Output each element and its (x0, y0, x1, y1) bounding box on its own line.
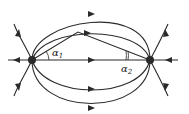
alpha1-label: α1 (52, 47, 63, 60)
arrow-right-axis (165, 57, 172, 63)
inner-field-line-top (32, 34, 150, 60)
arrow-outer-bottom (88, 105, 95, 111)
alpha2-label: α2 (121, 63, 133, 76)
outer-field-line-top (32, 22, 150, 60)
inner-field-line-bottom (32, 60, 150, 90)
arrow-inner-top (84, 30, 91, 36)
right-line-up (150, 24, 168, 60)
left-outward-line-up (14, 24, 32, 60)
arrow-left-down (15, 83, 21, 91)
triangle (32, 32, 150, 60)
arrow-inner-bottom (88, 86, 95, 92)
left-charge (28, 56, 36, 64)
arrow-axis (88, 57, 95, 63)
arrow-outer-top (88, 11, 95, 17)
field-line-diagram: α1 α2 (0, 0, 189, 114)
right-charge (146, 56, 154, 64)
left-outward-line-down (14, 60, 32, 96)
arrow-left-up (15, 29, 21, 37)
outer-field-line-bottom (32, 60, 150, 104)
arrow-left-axis (13, 57, 20, 63)
alpha1-arc (46, 51, 49, 60)
right-line-down (150, 60, 168, 96)
